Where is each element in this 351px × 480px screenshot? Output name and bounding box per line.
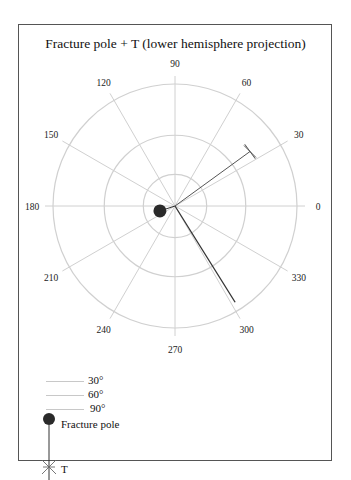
angular-tick-label: 120 <box>96 78 111 88</box>
legend-ring90-label: 90° <box>90 402 105 414</box>
legend-t-label: T <box>61 463 68 475</box>
angular-tick-label: 300 <box>239 325 254 335</box>
angular-tick-label: 90 <box>170 59 180 69</box>
legend-ring60-line <box>46 395 84 396</box>
legend-ring30-line <box>46 381 84 382</box>
fracture-pole-marker-icon <box>43 413 55 425</box>
legend-markers <box>40 410 60 480</box>
legend-ring30-label: 30° <box>88 374 103 386</box>
angular-tick-label: 180 <box>25 202 40 212</box>
t-line <box>175 152 250 206</box>
spoke-line <box>175 206 240 319</box>
spoke-line <box>110 93 175 206</box>
spoke-line <box>62 141 175 206</box>
polar-plot: 0306090120150180210240270300330 <box>0 0 351 480</box>
angular-tick-label: 240 <box>96 325 111 335</box>
legend-ring60-label: 60° <box>88 388 103 400</box>
spoke-line <box>175 93 240 206</box>
spoke-line <box>110 206 175 319</box>
angular-tick-label: 210 <box>44 273 59 283</box>
fracture-pole-marker <box>153 204 166 217</box>
angular-tick-label: 150 <box>44 130 59 140</box>
legend-pole-label: Fracture pole <box>61 418 119 430</box>
spoke-line <box>175 206 288 271</box>
angular-tick-label: 330 <box>292 273 307 283</box>
angular-tick-label: 30 <box>294 130 304 140</box>
t-marker <box>244 144 256 159</box>
angular-tick-label: 60 <box>242 78 252 88</box>
spoke-line <box>175 141 288 206</box>
angular-tick-label: 0 <box>316 202 321 212</box>
angular-tick-label: 270 <box>168 345 183 355</box>
